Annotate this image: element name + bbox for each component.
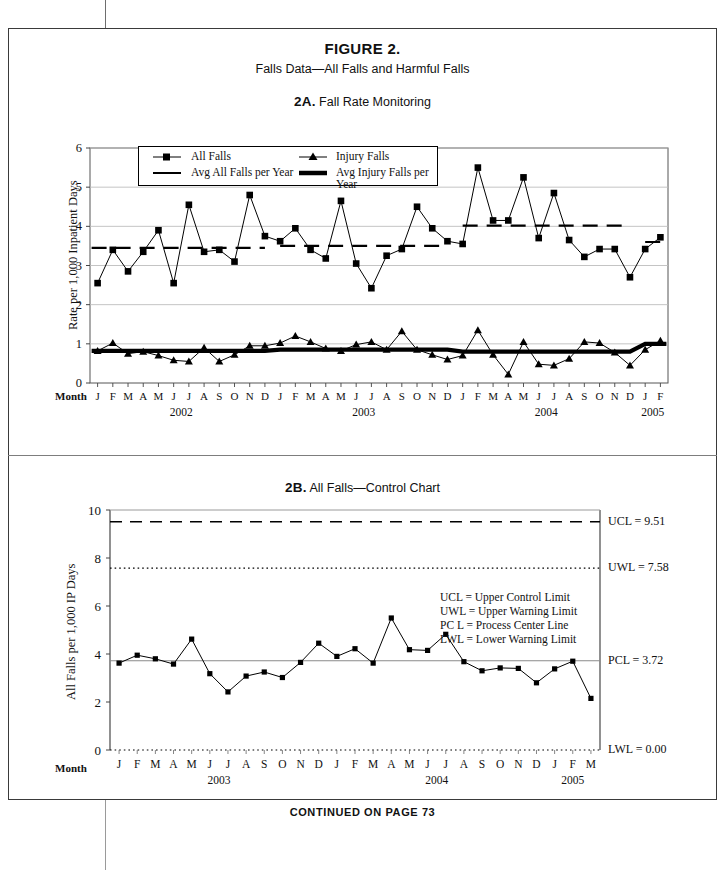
all-falls-marker <box>201 248 208 255</box>
chart-2a-month-tick: A <box>504 390 512 402</box>
chart-2b-month-tick: J <box>208 758 213 770</box>
chart-2a-year-label: 2003 <box>352 406 375 418</box>
injury-falls-marker <box>398 327 406 334</box>
chart-2b-month-tick: J <box>443 758 448 770</box>
control-chart-marker <box>189 637 194 642</box>
control-chart-marker <box>171 661 176 666</box>
chart-2a-year-label: 2002 <box>170 406 193 418</box>
chart-2a-month-tick: S <box>216 390 222 402</box>
chart-2a-y-tick: 1 <box>76 337 82 351</box>
chart-2a-year-label: 2005 <box>641 406 664 418</box>
all-falls-marker <box>596 246 603 253</box>
control-chart-marker <box>425 648 430 653</box>
control-chart-marker <box>225 689 230 694</box>
chart-2a-month-tick: M <box>154 390 164 402</box>
chart-2b-y-tick: 6 <box>95 599 102 614</box>
chart-2b-month-tick: J <box>117 758 122 770</box>
chart-2a-month-tick: A <box>139 390 147 402</box>
control-chart-marker <box>334 654 339 659</box>
chart-2a-month-tick: D <box>443 390 451 402</box>
chart-2a-month-tick: F <box>657 390 663 402</box>
chart-2b-month-tick: A <box>460 758 469 770</box>
note-pcl: PC L = Process Center Line <box>440 618 577 632</box>
all-falls-marker <box>490 217 497 224</box>
legend-item-avg-injury-falls: Avg Injury Falls per Year <box>336 166 437 190</box>
chart-2b-month-tick: O <box>496 758 504 770</box>
control-chart-marker <box>280 675 285 680</box>
all-falls-marker <box>657 234 664 241</box>
chart-2b-month-tick: S <box>261 758 267 770</box>
lwl-value-label: LWL = 0.00 <box>608 742 666 757</box>
all-falls-marker <box>414 203 421 210</box>
control-chart-marker <box>352 646 357 651</box>
chart-2b-month-tick: J <box>226 758 231 770</box>
all-falls-marker <box>383 252 390 259</box>
chart-2a-month-tick: N <box>246 390 254 402</box>
chart-2b-month-tick: A <box>242 758 251 770</box>
injury-falls-marker <box>474 326 482 333</box>
all-falls-marker <box>94 280 101 287</box>
chart-2b-year-label: 2003 <box>207 774 230 786</box>
all-falls-marker <box>307 247 314 254</box>
chart-2b-year-label: 2004 <box>425 774 448 786</box>
chart-2b-y-tick: 2 <box>95 695 102 710</box>
legend-item-injury-falls: Injury Falls <box>336 150 389 162</box>
legend-item-avg-all-falls: Avg All Falls per Year <box>191 166 293 178</box>
all-falls-marker <box>277 238 284 245</box>
chart-2b-month-tick: F <box>352 758 358 770</box>
control-chart-marker <box>498 665 503 670</box>
injury-falls-marker <box>520 338 528 345</box>
chart-2b-y-tick: 10 <box>88 503 101 518</box>
chart-2a-month-tick: J <box>354 390 359 402</box>
ucl-value-label: UCL = 9.51 <box>608 514 665 529</box>
chart-2a-month-label: Month <box>55 390 87 402</box>
control-chart-notes: UCL = Upper Control Limit UWL = Upper Wa… <box>440 590 577 646</box>
all-falls-marker <box>627 274 634 281</box>
chart-2a-month-tick: F <box>292 390 298 402</box>
injury-falls-marker <box>276 339 284 346</box>
chart-2a-month-tick: F <box>110 390 116 402</box>
chart-2b-svg: 0246810JFMAMJJASONDJFMAMJJASONDJFM200320… <box>0 430 725 830</box>
avg-all-falls-per-year-line <box>92 226 667 248</box>
control-chart-marker <box>552 666 557 671</box>
chart-2b-month-tick: A <box>169 758 178 770</box>
chart-2a-month-tick: F <box>475 390 481 402</box>
chart-2a-month-tick: D <box>626 390 634 402</box>
all-falls-marker <box>475 164 482 171</box>
legend-item-all-falls: All Falls <box>191 150 231 162</box>
chart-2a-month-tick: M <box>336 390 346 402</box>
control-chart-marker <box>534 680 539 685</box>
control-chart-marker <box>244 673 249 678</box>
control-chart-marker <box>316 641 321 646</box>
chart-2a-month-tick: M <box>123 390 133 402</box>
chart-2a-month-tick: J <box>461 390 466 402</box>
control-chart-marker <box>116 661 121 666</box>
all-falls-marker <box>140 248 147 255</box>
avg-injury-falls-per-year-line <box>92 344 667 352</box>
all-falls-marker <box>399 246 406 253</box>
all-falls-marker <box>566 237 573 244</box>
chart-2b-month-tick: M <box>187 758 197 770</box>
chart-2b-month-tick: M <box>586 758 596 770</box>
chart-2b-month-tick: D <box>315 758 323 770</box>
chart-2b-month-tick: N <box>514 758 523 770</box>
control-chart-marker <box>298 660 303 665</box>
all-falls-marker <box>216 247 223 254</box>
all-falls-marker <box>353 260 360 267</box>
chart-2b-month-tick: N <box>296 758 305 770</box>
fall-rate-monitoring-chart: 0123456JFMAMJJASONDJFMAMJJASONDJFMAMJJAS… <box>0 0 725 430</box>
control-chart-marker <box>207 671 212 676</box>
note-uwl: UWL = Upper Warning Limit <box>440 604 577 618</box>
injury-falls-marker <box>535 360 543 367</box>
chart-2a-y-tick: 6 <box>76 141 82 155</box>
chart-2b-y-tick: 0 <box>95 743 102 758</box>
injury-falls-marker <box>580 338 588 345</box>
control-chart-marker <box>153 656 158 661</box>
chart-2b-month-tick: F <box>134 758 140 770</box>
chart-2b-y-axis-label: All Falls per 1,000 IP Days <box>64 564 79 700</box>
chart-2b-month-tick: J <box>552 758 557 770</box>
chart-2b-y-tick: 4 <box>95 647 102 662</box>
injury-falls-marker <box>291 332 299 339</box>
injury-falls-marker <box>109 339 117 346</box>
note-ucl: UCL = Upper Control Limit <box>440 590 577 604</box>
